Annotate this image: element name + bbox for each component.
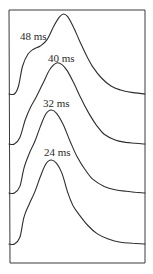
plot-frame	[9, 10, 145, 263]
trace-labels: 48 ms 40 ms 32 ms 24 ms	[20, 30, 75, 158]
trace-48ms	[9, 14, 145, 95]
trace-40ms	[9, 63, 145, 145]
trace-label-40ms: 40 ms	[48, 52, 75, 64]
trace-32ms	[9, 110, 145, 193]
trace-label-32ms: 32 ms	[43, 97, 70, 109]
frame-left	[9, 10, 10, 263]
trace-label-48ms: 48 ms	[20, 30, 47, 42]
trace-label-24ms: 24 ms	[44, 146, 71, 158]
stacked-traces-chart: 48 ms 40 ms 32 ms 24 ms	[0, 0, 153, 274]
traces	[9, 14, 145, 245]
trace-24ms	[9, 160, 145, 244]
